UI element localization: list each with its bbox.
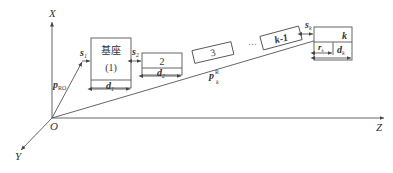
block-3: 3 <box>192 42 234 64</box>
svg-text:k: k <box>216 79 219 85</box>
base-index: (1) <box>105 62 117 74</box>
base-title: 基座 <box>101 44 121 56</box>
z-axis-label: Z <box>376 121 383 133</box>
gap-s1-label: s1 <box>79 47 87 59</box>
gap-s2-label: s2 <box>131 46 139 58</box>
vector-p-ro: pRO <box>52 62 82 118</box>
block-k-index: k <box>342 30 347 41</box>
block-2: 2 d2 s2 <box>131 46 182 79</box>
block-k: k rk dk sk <box>302 19 352 60</box>
base-block: 基座 (1) d1 s1 <box>79 38 131 92</box>
gap-sk-label: sk <box>304 19 312 31</box>
svg-text:R: R <box>215 69 219 75</box>
block-2-index: 2 <box>160 56 165 67</box>
origin-label: O <box>50 120 58 132</box>
svg-text:pRO: pRO <box>52 79 67 91</box>
ellipsis: ··· <box>248 39 257 49</box>
y-axis <box>21 118 52 150</box>
x-axis-label: X <box>48 7 57 19</box>
kinematic-chain-diagram: X Z Y O pRO p R k 基座 (1) d1 s1 2 d2 s2 <box>0 0 393 173</box>
svg-text:p: p <box>208 70 214 81</box>
y-axis-label: Y <box>15 150 23 162</box>
